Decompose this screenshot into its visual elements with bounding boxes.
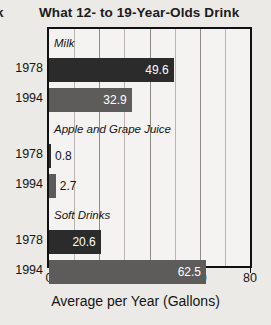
bar-1994-apple-and-grape-juice[interactable] — [49, 174, 56, 198]
x-tick-label: 80 — [243, 272, 257, 285]
year-axis-labels: 197819941978199419781994 — [0, 27, 43, 268]
year-label: 1978 — [1, 62, 43, 75]
bar-1978-apple-and-grape-juice[interactable] — [49, 144, 51, 168]
bar-value-label: 20.6 — [72, 236, 95, 248]
bar-value-label: 0.8 — [55, 150, 72, 162]
group-caption: Milk — [54, 37, 74, 49]
year-label: 1994 — [1, 264, 43, 277]
year-label: 1978 — [1, 148, 43, 161]
plot-inner: Milk49.632.9Apple and Grape Juice0.82.7S… — [49, 29, 250, 266]
bar-value-label: 49.6 — [145, 64, 168, 76]
plot-area: Milk49.632.9Apple and Grape Juice0.82.7S… — [47, 27, 252, 268]
gridline — [175, 29, 176, 266]
year-label: 1994 — [1, 178, 43, 191]
group-caption: Soft Drinks — [54, 209, 110, 221]
bar-value-label: 32.9 — [103, 94, 126, 106]
group-caption: Apple and Grape Juice — [54, 123, 171, 135]
bar-value-label: 62.5 — [178, 266, 201, 278]
year-label: 1994 — [1, 92, 43, 105]
chart-title: What 12- to 19-Year-Olds Drink — [39, 5, 271, 20]
x-axis-title: Average per Year (Gallons) — [0, 293, 271, 309]
gridline — [225, 29, 226, 266]
year-label: 1978 — [1, 234, 43, 247]
bar-value-label: 2.7 — [60, 180, 77, 192]
clipped-left-text: k — [0, 5, 4, 20]
gridline — [200, 29, 201, 266]
chart-figure: k What 12- to 19-Year-Olds Drink 1978199… — [0, 0, 271, 325]
